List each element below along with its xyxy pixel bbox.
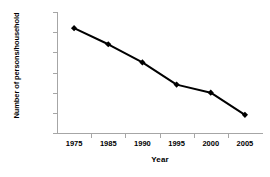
y-tick: 3.50 bbox=[0, 133, 57, 134]
data-point-marker bbox=[173, 82, 179, 88]
x-tick-mark bbox=[91, 134, 92, 138]
y-axis-line bbox=[57, 12, 58, 134]
y-tick: 5.00 bbox=[0, 73, 57, 74]
line-chart: Number of persons/household 3.504.004.50… bbox=[0, 0, 270, 177]
data-point-marker bbox=[105, 41, 111, 47]
y-tick-mark bbox=[53, 52, 57, 53]
data-point-marker bbox=[242, 112, 248, 118]
y-tick: 5.50 bbox=[0, 52, 57, 53]
y-tick-mark bbox=[53, 133, 57, 134]
data-series-line bbox=[0, 0, 270, 177]
x-tick-mark bbox=[160, 134, 161, 138]
y-tick: 4.00 bbox=[0, 113, 57, 114]
y-tick-mark bbox=[53, 73, 57, 74]
y-tick-mark bbox=[53, 113, 57, 114]
x-tick-mark bbox=[194, 134, 195, 138]
x-tick-mark bbox=[125, 134, 126, 138]
y-tick: 4.50 bbox=[0, 93, 57, 94]
x-axis-title: Year bbox=[57, 155, 263, 164]
x-tick-label: 2005 bbox=[225, 139, 265, 148]
series-polyline bbox=[74, 28, 245, 115]
y-tick-mark bbox=[53, 93, 57, 94]
y-tick-mark bbox=[53, 32, 57, 33]
y-axis-title: Number of persons/household bbox=[12, 1, 21, 131]
data-point-marker bbox=[208, 90, 214, 96]
y-tick: 6.50 bbox=[0, 12, 57, 13]
y-tick: 6.00 bbox=[0, 32, 57, 33]
data-point-marker bbox=[71, 25, 77, 31]
x-tick-mark bbox=[228, 134, 229, 138]
y-tick-mark bbox=[53, 12, 57, 13]
data-point-marker bbox=[139, 59, 145, 65]
